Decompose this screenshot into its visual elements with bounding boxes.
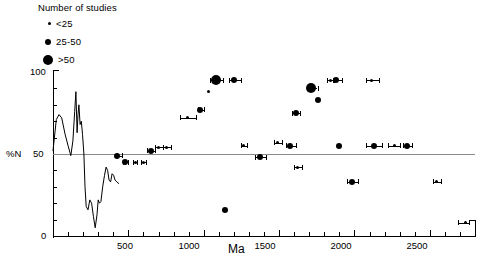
- error-bar-cap: [358, 179, 359, 184]
- error-bar-cap: [433, 179, 434, 184]
- error-bar-cap: [171, 145, 172, 150]
- error-bar-cap: [400, 143, 401, 148]
- error-bar-cap: [382, 143, 383, 148]
- error-bar-cap: [294, 165, 295, 170]
- data-point: [211, 75, 221, 85]
- error-bar-cap: [379, 78, 380, 83]
- data-point: [157, 146, 160, 149]
- error-bar-cap: [458, 220, 459, 225]
- error-bar-cap: [137, 160, 138, 165]
- error-bar-cap: [347, 179, 348, 184]
- error-bar-cap: [366, 143, 367, 148]
- error-bar-cap: [388, 143, 389, 148]
- error-bar-cap: [441, 179, 442, 184]
- error-bar-cap: [318, 86, 319, 91]
- error-bar-cap: [163, 145, 164, 150]
- data-point: [370, 79, 373, 82]
- error-bar-cap: [180, 115, 181, 120]
- error-bar-cap: [241, 78, 242, 83]
- error-bar-cap: [223, 78, 224, 83]
- chart-root: Number of studies <25 25-50 >50 %N 100 5…: [0, 0, 493, 261]
- data-point: [134, 161, 137, 164]
- data-point: [371, 143, 377, 149]
- error-bar-cap: [302, 165, 303, 170]
- error-bar-cap: [366, 78, 367, 83]
- error-bar-cap: [296, 143, 297, 148]
- data-point: [148, 148, 154, 154]
- data-point: [404, 143, 410, 149]
- error-bar-cap: [247, 143, 248, 148]
- error-bar-cap: [469, 220, 470, 225]
- data-point: [114, 153, 120, 159]
- error-bar-cap: [266, 155, 267, 160]
- data-point: [329, 79, 332, 82]
- error-bar-cap: [255, 155, 256, 160]
- error-bar-cap: [122, 153, 123, 158]
- percent-n-curve: [0, 0, 493, 261]
- error-bar-cap: [282, 140, 283, 145]
- error-bar-cap: [300, 111, 301, 116]
- data-point: [222, 207, 228, 213]
- error-bar-cap: [274, 140, 275, 145]
- error-bar-cap: [342, 78, 343, 83]
- error-bar-cap: [229, 78, 230, 83]
- data-point: [349, 179, 355, 185]
- data-point: [293, 110, 299, 116]
- error-bar-cap: [146, 160, 147, 165]
- data-point: [197, 107, 203, 113]
- error-bar-cap: [412, 143, 413, 148]
- data-point: [142, 161, 145, 164]
- data-point: [231, 77, 237, 83]
- error-bar-cap: [204, 107, 205, 112]
- error-bar-cap: [196, 115, 197, 120]
